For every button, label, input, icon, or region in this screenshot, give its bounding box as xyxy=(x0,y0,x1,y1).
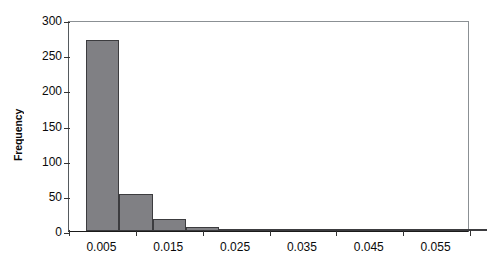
x-axis-tick-label: 0.045 xyxy=(339,240,399,254)
y-axis-tick-mark xyxy=(64,128,70,129)
y-axis-tick-label: 300 xyxy=(28,14,62,28)
y-axis-tick-labels: 050100150200250300 xyxy=(28,0,62,274)
y-axis-tick-mark xyxy=(64,198,70,199)
x-axis-tick-mark xyxy=(69,230,70,236)
x-axis-tick-mark xyxy=(336,230,337,236)
x-axis-tick-mark xyxy=(403,230,404,236)
histogram-bar xyxy=(353,229,386,231)
y-axis-title: Frequency xyxy=(10,95,26,175)
x-axis-tick-mark xyxy=(203,230,204,236)
bars-layer xyxy=(69,22,468,231)
histogram-bar xyxy=(119,194,152,231)
y-axis-tick-mark xyxy=(64,57,70,58)
histogram-bar xyxy=(86,40,119,231)
histogram-bar xyxy=(420,229,453,231)
plot-area xyxy=(68,21,469,232)
y-axis-tick-mark xyxy=(64,92,70,93)
y-axis-tick-label: 250 xyxy=(28,49,62,63)
x-axis-tick-label: 0.005 xyxy=(71,240,131,254)
histogram-bar xyxy=(153,219,186,231)
y-axis-tick-label: 0 xyxy=(28,225,62,239)
y-axis-tick-label: 200 xyxy=(28,84,62,98)
y-axis-tick-label: 150 xyxy=(28,120,62,134)
y-axis-tick-label: 50 xyxy=(28,190,62,204)
histogram-bar xyxy=(286,229,319,231)
x-axis-tick-labels: 0.0050.0150.0250.0350.0450.055 xyxy=(68,240,469,260)
x-axis-tick-label: 0.055 xyxy=(406,240,466,254)
x-axis-tick-label: 0.035 xyxy=(272,240,332,254)
x-axis-tick-mark xyxy=(270,230,271,236)
x-axis-tick-mark xyxy=(136,230,137,236)
histogram-bar xyxy=(219,229,252,231)
y-axis-tick-label: 100 xyxy=(28,155,62,169)
x-axis-tick-label: 0.025 xyxy=(205,240,265,254)
y-axis-tick-mark xyxy=(64,163,70,164)
y-axis-tick-mark xyxy=(64,22,70,23)
x-axis-tick-mark xyxy=(470,230,471,236)
x-axis-tick-label: 0.015 xyxy=(138,240,198,254)
